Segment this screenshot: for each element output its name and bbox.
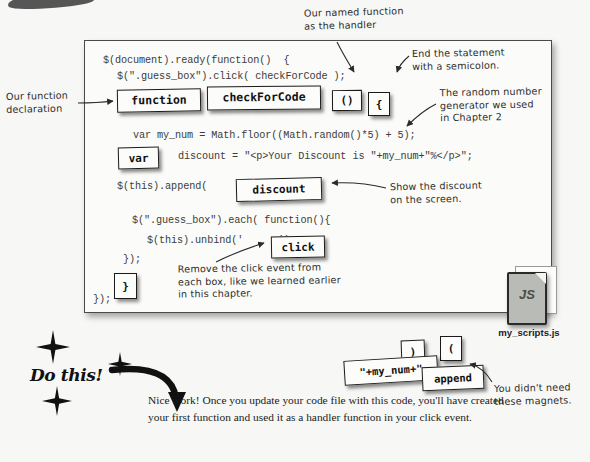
annotation-random-number: The random number generator we used in C…: [440, 85, 571, 125]
js-file-corner-fold: [535, 273, 546, 284]
code-line: });: [93, 294, 111, 305]
code-line: var my_num = Math.floor((Math.random()*5…: [133, 130, 416, 141]
js-file-icon: JS my_scripts.js: [507, 272, 549, 324]
magnet-click[interactable]: click: [271, 236, 325, 259]
page-edge-smudge: [8, 0, 95, 11]
do-this-heading: Do this!: [30, 365, 103, 385]
js-file-caption: my_scripts.js: [490, 327, 568, 338]
code-line: $(".guess_box").each( function(){: [132, 215, 330, 226]
annotation-end-statement: End the statement with a semicolon.: [412, 46, 537, 73]
magnet-discount[interactable]: discount: [236, 177, 323, 202]
magnet-function[interactable]: function: [117, 88, 201, 112]
star-bottom: [42, 386, 72, 416]
magnet-leftover-open-paren[interactable]: (: [440, 336, 462, 361]
annotation-magnets-unused: You didn't need these magnets.: [494, 381, 590, 408]
magnet-checkforcode[interactable]: checkForCode: [207, 85, 321, 110]
code-line: });: [123, 254, 141, 265]
code-line: $(".guess_box").click( checkForCode );: [117, 71, 346, 82]
code-line: $(document).ready(function() {: [103, 55, 289, 66]
magnet-close-brace[interactable]: }: [114, 273, 137, 299]
js-file-document: JS: [507, 272, 547, 325]
magnet-open-brace[interactable]: {: [368, 92, 390, 116]
annotation-function-declaration: Our function declaration: [6, 89, 93, 116]
annotation-show-discount: Show the discount on the screen.: [390, 179, 521, 207]
do-this-body: Nice work! Once you update your code fil…: [148, 392, 508, 426]
js-file-badge: JS: [509, 287, 545, 302]
annotation-named-function: Our named function as the handler: [304, 4, 435, 33]
magnet-var[interactable]: var: [118, 146, 160, 169]
book-page: $(document).ready(function() {$(".guess_…: [0, 0, 590, 462]
annotation-remove-click: Remove the click event from each box, li…: [178, 261, 389, 302]
code-line: discount = "<p>Your Discount is "+my_num…: [178, 151, 473, 162]
star-middle: [108, 352, 132, 376]
magnet-leftover-append[interactable]: append: [422, 365, 485, 392]
code-line: $(this).unbind(': [147, 235, 243, 246]
magnet-parens[interactable]: (): [332, 90, 362, 111]
star-top: [36, 330, 70, 364]
code-line: $(this).append(: [117, 181, 207, 192]
